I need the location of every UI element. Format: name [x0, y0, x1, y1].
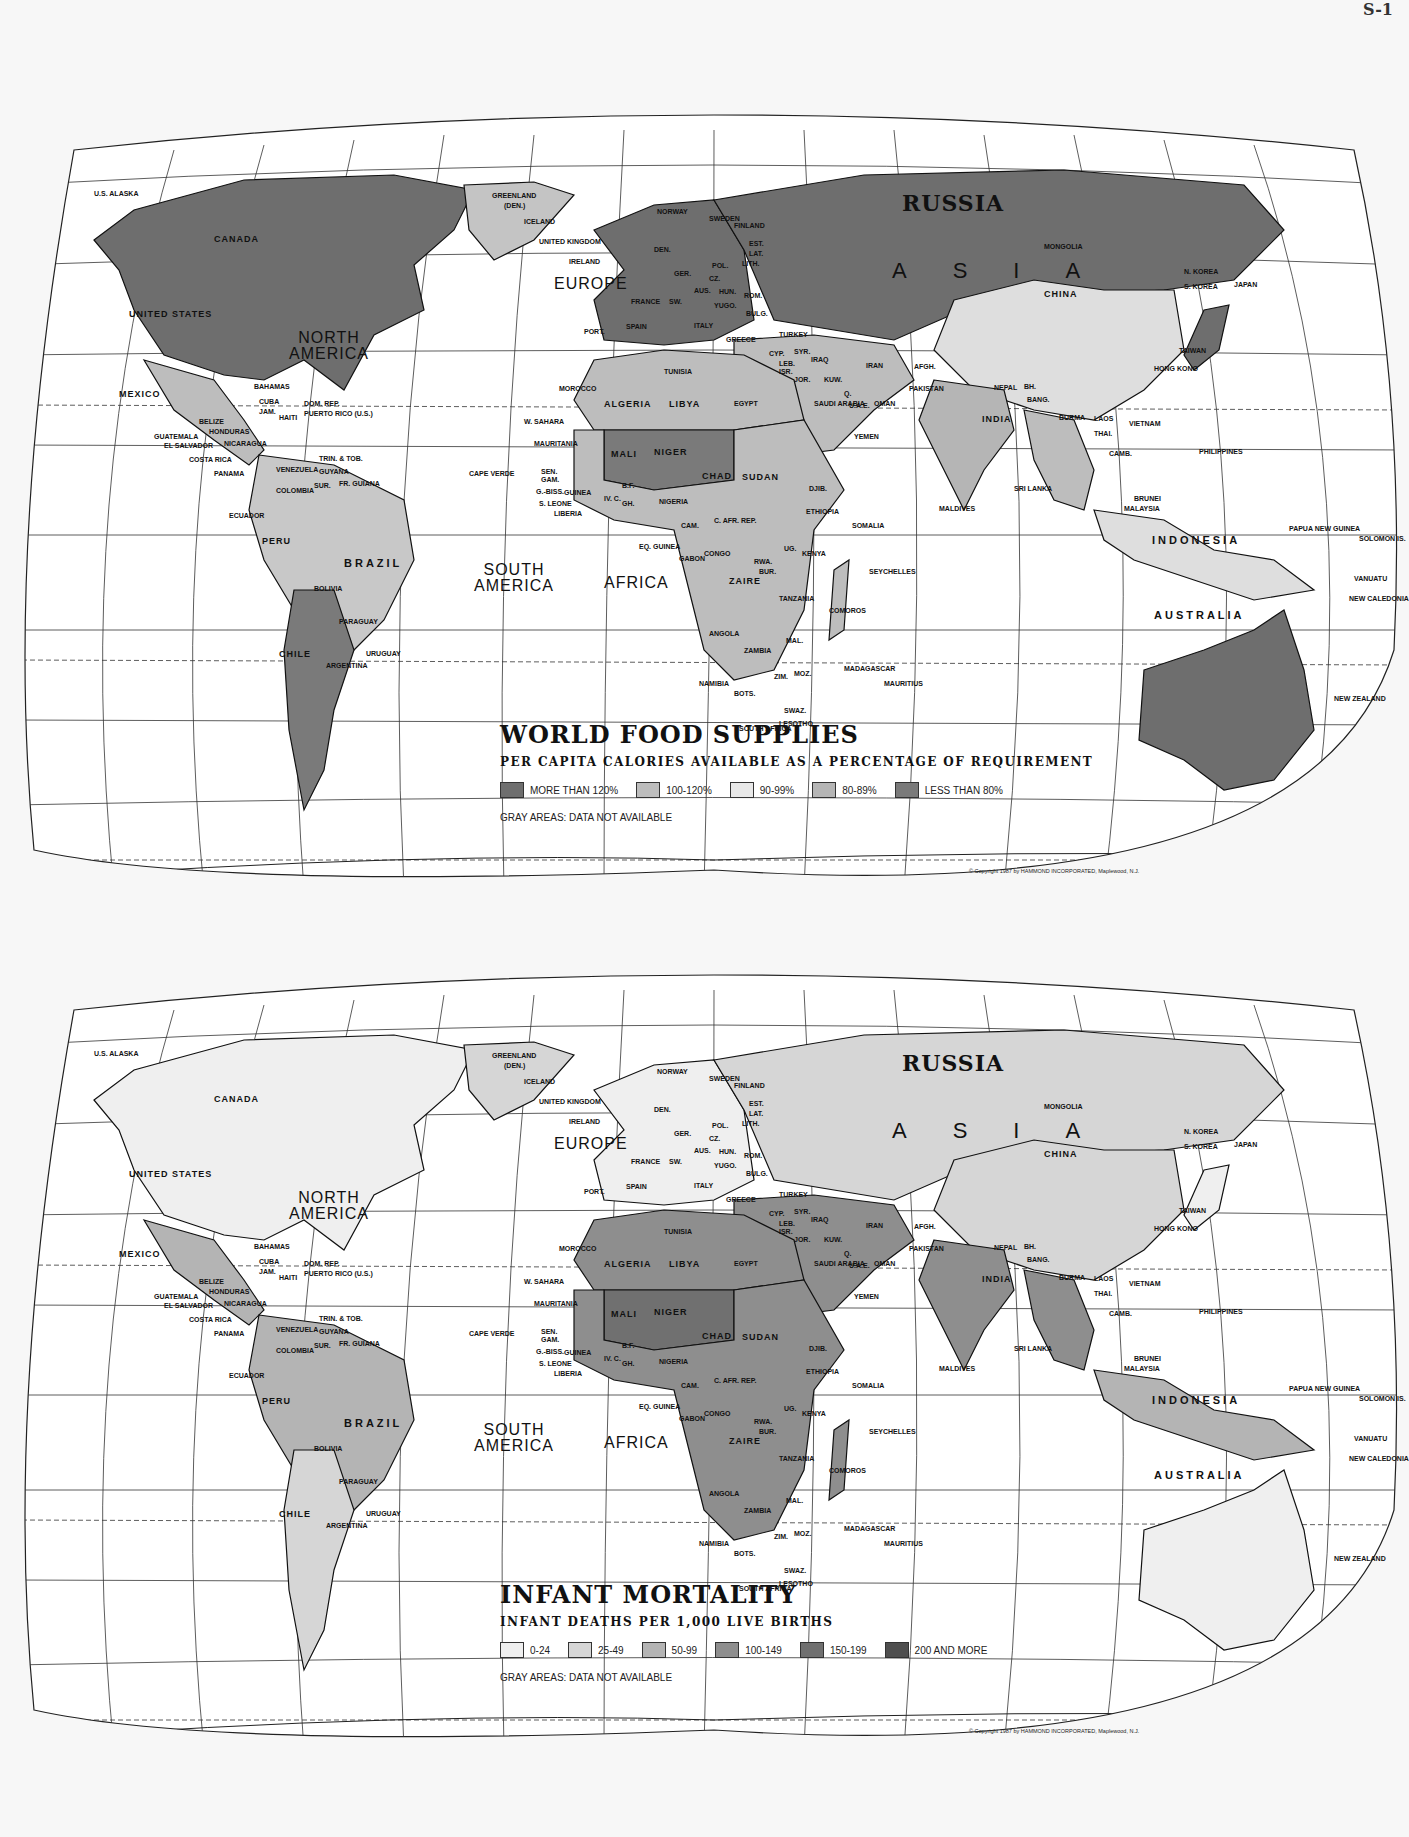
label-bahamas: BAHAMAS: [254, 383, 290, 390]
label-tunisia: TUNISIA: [664, 368, 692, 375]
label-sen: SEN.: [541, 1328, 557, 1335]
label-cz: CZ.: [709, 1135, 720, 1142]
label-indonesia: INDONESIA: [1152, 1395, 1240, 1406]
label-uk: UNITED KINGDOM: [539, 1098, 601, 1105]
label-france: FRANCE: [631, 298, 660, 305]
label-yemen: YEMEN: [854, 1293, 879, 1300]
label-guatemala: GUATEMALA: [154, 433, 198, 440]
label-norway: NORWAY: [657, 1068, 688, 1075]
label-papua: PAPUA NEW GUINEA: [1289, 1385, 1360, 1392]
label-niger: NIGER: [654, 448, 688, 457]
label-libya: LIBYA: [669, 400, 700, 409]
label-sri-lanka: SRI LANKA: [1014, 1345, 1052, 1352]
label-yugo: YUGO.: [714, 302, 737, 309]
label-ireland: IRELAND: [569, 258, 600, 265]
label-tanzania: TANZANIA: [779, 1455, 814, 1462]
label-el-salvador: EL SALVADOR: [164, 442, 213, 449]
label-est: EST.: [749, 1100, 764, 1107]
label-gh: GH.: [622, 500, 634, 507]
label-panama: PANAMA: [214, 1330, 244, 1337]
label-trin-tob: TRIN. & TOB.: [319, 1315, 363, 1322]
label-vietnam: VIETNAM: [1129, 420, 1161, 427]
label-laos: LAOS: [1094, 415, 1113, 422]
legend-swatch: [642, 1642, 666, 1658]
label-mexico: MEXICO: [119, 1250, 161, 1259]
label-s-leone: S. LEONE: [539, 500, 572, 507]
label-bang: BANG.: [1027, 396, 1050, 403]
label-bots: BOTS.: [734, 690, 755, 697]
label-oman: OMAN: [874, 400, 895, 407]
label-greenland-sub: (DEN.): [504, 1062, 525, 1069]
label-zambia: ZAMBIA: [744, 647, 771, 654]
label-gam: GAM.: [541, 476, 559, 483]
label-italy: ITALY: [694, 1182, 713, 1189]
label-lith: LITH.: [742, 1120, 760, 1127]
legend-swatch: [730, 782, 754, 798]
label-new-zealand: NEW ZEALAND: [1334, 1555, 1386, 1562]
label-congo: CONGO: [704, 1410, 730, 1417]
label-g-biss: G.-BISS.: [536, 488, 564, 495]
label-greenland: GREENLAND: [492, 192, 536, 199]
label-zambia: ZAMBIA: [744, 1507, 771, 1514]
label-jor: JOR.: [794, 1236, 810, 1243]
label-france: FRANCE: [631, 1158, 660, 1165]
label-solomon: SOLOMON IS.: [1359, 535, 1406, 542]
label-nigeria: NIGERIA: [659, 1358, 688, 1365]
label-iraq: IRAQ: [811, 1216, 829, 1223]
label-brazil: BRAZIL: [344, 558, 402, 569]
label-nepal: NEPAL: [994, 384, 1017, 391]
label-philippines: PHILIPPINES: [1199, 1308, 1243, 1315]
legend-swatch: [500, 1642, 524, 1658]
label-swaz: SWAZ.: [784, 1567, 806, 1574]
legend-label: 100-149: [745, 1645, 782, 1656]
map-panel-infant: U.S. ALASKACANADAUNITED STATESNORTH AMER…: [14, 950, 1407, 1770]
label-china: CHINA: [1044, 1150, 1078, 1159]
label-australia: AUSTRALIA: [1154, 1470, 1245, 1481]
label-guyana: GUYANA: [319, 468, 349, 475]
legend-item: LESS THAN 80%: [895, 782, 1003, 798]
label-turkey: TURKEY: [779, 331, 808, 338]
label-sweden: SWEDEN: [709, 215, 740, 222]
sahel-shape: [604, 430, 734, 490]
label-italy: ITALY: [694, 322, 713, 329]
label-bur: BUR.: [759, 1428, 776, 1435]
legend-item: 0-24: [500, 1642, 550, 1658]
label-libya: LIBYA: [669, 1260, 700, 1269]
label-sen: SEN.: [541, 468, 557, 475]
label-aus: AUS.: [694, 1147, 711, 1154]
label-madagascar: MADAGASCAR: [844, 665, 895, 672]
label-canada: CANADA: [214, 235, 259, 244]
legend-label: 0-24: [530, 1645, 550, 1656]
legend-swatch: [800, 1642, 824, 1658]
label-uruguay: URUGUAY: [366, 1510, 401, 1517]
label-ethiopia: ETHIOPIA: [806, 1368, 839, 1375]
label-s-leone: S. LEONE: [539, 1360, 572, 1367]
label-hun: HUN.: [719, 1148, 736, 1155]
label-den: DEN.: [654, 246, 671, 253]
label-ger: GER.: [674, 1130, 691, 1137]
label-panama: PANAMA: [214, 470, 244, 477]
label-port: PORT.: [584, 328, 605, 335]
label-bh: BH.: [1024, 383, 1036, 390]
label-papua: PAPUA NEW GUINEA: [1289, 525, 1360, 532]
label-bf: B.F.: [622, 482, 634, 489]
new-zealand-shape: [1344, 800, 1384, 850]
label-cape-verde: CAPE VERDE: [469, 470, 515, 477]
label-china: CHINA: [1044, 290, 1078, 299]
label-hong-kong: HONG KONG: [1154, 365, 1198, 372]
legend-item: 50-99: [642, 1642, 698, 1658]
legend-swatch: [715, 1642, 739, 1658]
label-asia: ASIA: [892, 260, 1126, 282]
label-gabon: GABON: [679, 1415, 705, 1422]
label-greece: GREECE: [726, 1196, 756, 1203]
legend-swatch: [812, 782, 836, 798]
label-iv-c: IV. C.: [604, 1355, 621, 1362]
label-trin-tob: TRIN. & TOB.: [319, 455, 363, 462]
label-australia: AUSTRALIA: [1154, 610, 1245, 621]
label-mongolia: MONGOLIA: [1044, 1103, 1083, 1110]
copyright-notice: © Copyright 1987 by HAMMOND INCORPORATED…: [969, 868, 1139, 874]
label-north-america: NORTH AMERICA: [269, 1190, 389, 1222]
label-gh: GH.: [622, 1360, 634, 1367]
label-new-zealand: NEW ZEALAND: [1334, 695, 1386, 702]
label-camb: CAMB.: [1109, 450, 1132, 457]
